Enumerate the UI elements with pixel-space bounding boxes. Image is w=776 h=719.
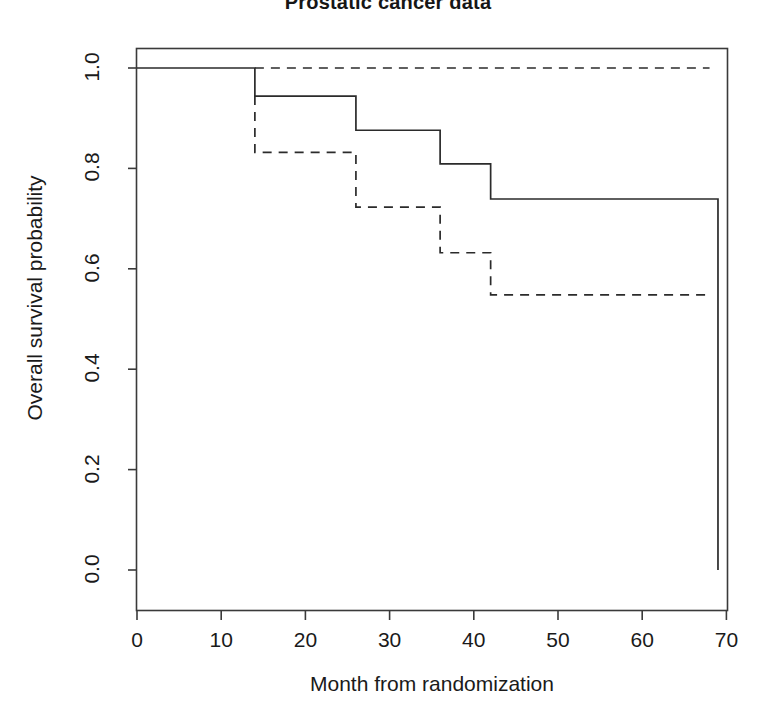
chart-figure: Prostatic cancer data Overall survival p…: [0, 0, 776, 719]
axis-group: [128, 49, 728, 621]
x-tick-label: 30: [360, 628, 420, 652]
x-tick-label: 70: [696, 628, 756, 652]
data-series-group: [137, 68, 718, 570]
x-tick-label: 60: [612, 628, 672, 652]
y-tick-marks: [128, 68, 137, 570]
y-tick-label: 1.0: [80, 37, 104, 97]
y-tick-label: 0.0: [80, 539, 104, 599]
x-tick-marks: [137, 611, 726, 621]
plot-frame: [137, 49, 728, 611]
x-tick-label: 20: [275, 628, 335, 652]
y-tick-label: 0.6: [80, 238, 104, 298]
x-tick-label: 10: [191, 628, 251, 652]
dashed-lower-curve: [255, 96, 710, 295]
y-tick-label: 0.2: [80, 439, 104, 499]
y-tick-label: 0.4: [80, 338, 104, 398]
x-tick-label: 40: [444, 628, 504, 652]
solid-survival-curve: [137, 68, 718, 570]
x-tick-label: 0: [107, 628, 167, 652]
x-tick-label: 50: [528, 628, 588, 652]
y-tick-label: 0.8: [80, 137, 104, 197]
plot-area: [0, 0, 776, 719]
